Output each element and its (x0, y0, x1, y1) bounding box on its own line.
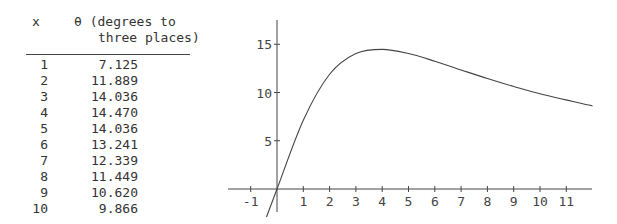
y-tick-label: 10 (256, 86, 272, 101)
x-tick-label: 1 (299, 194, 307, 209)
x-tick-label: 4 (378, 194, 386, 209)
y-tick-label: 5 (264, 134, 272, 149)
theta-curve (266, 49, 592, 217)
x-tick-label: 8 (483, 194, 491, 209)
x-tick-label: 5 (405, 194, 413, 209)
x-tick-label: 3 (352, 194, 360, 209)
x-tick-label: 6 (431, 194, 439, 209)
x-tick-label: 10 (532, 194, 548, 209)
x-tick-label: 9 (510, 194, 518, 209)
chart: -1123456789101151015 (0, 0, 617, 224)
x-tick-label: -1 (243, 194, 259, 209)
x-tick-label: 2 (326, 194, 334, 209)
x-tick-label: 11 (558, 194, 574, 209)
x-tick-label: 7 (457, 194, 465, 209)
y-tick-label: 15 (256, 37, 272, 52)
